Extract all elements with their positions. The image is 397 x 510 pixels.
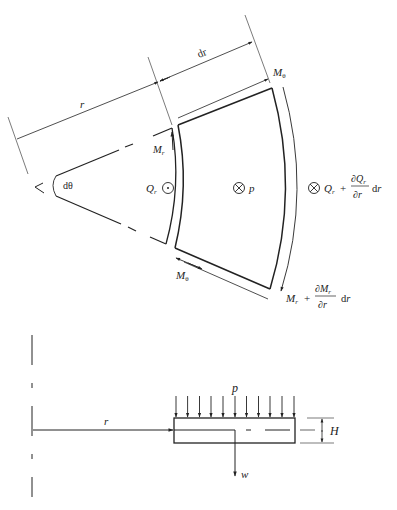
svg-text:∂Mr: ∂Mr — [315, 283, 331, 296]
extension-line-outer — [245, 15, 270, 83]
svg-text:dr: dr — [372, 183, 382, 194]
upper-ray-dash-2 — [153, 128, 172, 136]
svg-text:+: + — [304, 292, 310, 304]
extension-line-apex — [8, 117, 28, 174]
label-thickness-h: H — [329, 424, 340, 438]
plate-element-diagram: r dr dθ Mθ Mr Qr p Mθ Qr + ∂Qr ∂r dr Mr … — [0, 0, 397, 510]
svg-text:∂r: ∂r — [318, 299, 327, 310]
dimension-line-dr — [160, 42, 252, 81]
label-m-r: Mr — [152, 144, 165, 157]
upper-ray-dash-1 — [125, 144, 133, 147]
label-r: r — [80, 98, 85, 110]
label-dr: dr — [195, 45, 208, 60]
svg-text:∂Qr: ∂Qr — [351, 173, 366, 186]
m-theta-top-arrow — [178, 79, 268, 118]
label-deflection-w: w — [241, 468, 249, 480]
element-outer-arc — [270, 88, 286, 289]
top-view — [8, 15, 320, 299]
element-top-edge — [178, 88, 272, 125]
label-mr-plus-expr: Mr + ∂Mr ∂r dr — [285, 283, 351, 310]
svg-text:dr: dr — [341, 293, 351, 304]
label-m-theta-bottom: Mθ — [175, 269, 189, 283]
lower-ray-dash-2 — [150, 237, 166, 244]
dtheta-arc — [53, 176, 56, 196]
label-dtheta: dθ — [63, 180, 73, 191]
dimension-line-r — [17, 82, 158, 139]
lower-ray-solid — [56, 196, 121, 224]
m-r-plus-arrow — [281, 87, 297, 291]
label-qr-plus-expr: Qr + ∂Qr ∂r dr — [324, 173, 382, 200]
label-m-theta-top: Mθ — [272, 66, 286, 80]
label-p: p — [248, 182, 255, 194]
label-radius-r: r — [104, 415, 109, 427]
label-load-p: p — [231, 381, 238, 395]
qr-plus-into-page-icon — [309, 183, 320, 194]
m-theta-bottom-arrow-2 — [188, 263, 202, 269]
extension-line-inner — [148, 57, 172, 125]
distributed-load-arrows — [176, 396, 294, 417]
upper-ray-solid — [56, 150, 119, 176]
svg-text:+: + — [340, 182, 346, 194]
side-view — [32, 335, 334, 497]
svg-text:∂r: ∂r — [353, 189, 362, 200]
svg-text:Qr: Qr — [324, 182, 335, 196]
p-into-page-icon — [234, 183, 245, 194]
apex-vertex — [35, 183, 44, 193]
dimension-arrow-dr-start — [160, 77, 170, 81]
m-theta-bottom-line — [184, 262, 268, 299]
element-bottom-edge — [175, 248, 270, 289]
label-q-r: Qr — [146, 182, 157, 196]
inner-arc-sector — [166, 128, 176, 244]
top-view-labels: r dr dθ Mθ Mr Qr p Mθ Qr + ∂Qr ∂r dr Mr … — [63, 45, 382, 310]
lower-ray-dash-1 — [128, 227, 136, 231]
svg-text:Mr: Mr — [285, 292, 298, 306]
element-inner-arc — [175, 125, 183, 248]
